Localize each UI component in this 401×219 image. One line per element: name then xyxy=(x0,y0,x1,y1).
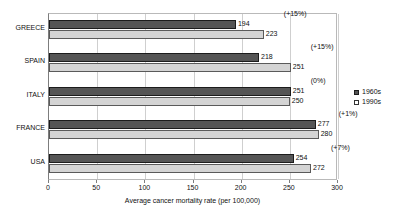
bar-1990s[interactable] xyxy=(49,30,264,39)
category-label-greece: GREECE xyxy=(15,23,45,32)
bar-value-1990s: 223 xyxy=(266,29,278,38)
percent-change-label: (+1%) xyxy=(339,109,358,118)
x-tick-label: 100 xyxy=(138,183,150,192)
bar-group: 251250(0%) xyxy=(49,86,336,108)
bar-1960s[interactable] xyxy=(49,53,259,62)
x-tick-label: 200 xyxy=(235,183,247,192)
bar-1990s[interactable] xyxy=(49,97,290,106)
bar-1960s[interactable] xyxy=(49,20,236,29)
x-tick-label: 50 xyxy=(92,183,100,192)
legend-label-1990s: 1990s xyxy=(362,97,381,107)
x-axis: 050100150200250300 xyxy=(48,180,337,194)
bar-group: 254272(+7%) xyxy=(49,153,336,175)
x-tick-label: 150 xyxy=(187,183,199,192)
bar-1960s[interactable] xyxy=(49,87,291,96)
bar-value-1990s: 251 xyxy=(293,62,305,71)
bar-1960s[interactable] xyxy=(49,154,294,163)
bar-value-1990s: 280 xyxy=(321,129,333,138)
percent-change-label: (0%) xyxy=(311,76,326,85)
bar-1990s[interactable] xyxy=(49,130,319,139)
bar-chart: GREECESPAINITALYFRANCEUSA 194223(+15%)21… xyxy=(0,0,401,219)
bar-value-1990s: 250 xyxy=(292,96,304,105)
bar-value-1960s: 218 xyxy=(261,52,273,61)
legend-label-1960s: 1960s xyxy=(362,87,381,97)
bar-value-1990s: 272 xyxy=(313,163,325,172)
x-tick-label: 300 xyxy=(331,183,343,192)
bar-1960s[interactable] xyxy=(49,120,316,129)
category-axis: GREECESPAINITALYFRANCEUSA xyxy=(0,13,45,180)
category-label-usa: USA xyxy=(31,157,45,166)
x-tick-label: 0 xyxy=(46,183,50,192)
category-label-france: FRANCE xyxy=(16,123,45,132)
chart-legend: 1960s 1990s xyxy=(354,87,381,107)
bar-1990s[interactable] xyxy=(49,164,311,173)
plot-area: 194223(+15%)218251(+15%)251250(0%)277280… xyxy=(48,13,337,180)
legend-item-1960s[interactable]: 1960s xyxy=(354,87,381,97)
bar-group: 277280(+1%) xyxy=(49,119,336,141)
gridline xyxy=(338,14,339,179)
category-label-italy: ITALY xyxy=(27,90,45,99)
bar-1990s[interactable] xyxy=(49,63,291,72)
percent-change-label: (+15%) xyxy=(284,9,307,18)
bar-value-1960s: 254 xyxy=(296,153,308,162)
bar-group: 218251(+15%) xyxy=(49,52,336,74)
x-tick-label: 250 xyxy=(283,183,295,192)
x-axis-title: Average cancer mortality rate (per 100,0… xyxy=(48,196,337,205)
bar-value-1960s: 277 xyxy=(318,119,330,128)
legend-swatch-1960s-icon xyxy=(354,90,359,95)
bar-value-1960s: 194 xyxy=(238,19,250,28)
percent-change-label: (+15%) xyxy=(311,42,334,51)
legend-swatch-1990s-icon xyxy=(354,100,359,105)
legend-item-1990s[interactable]: 1990s xyxy=(354,97,381,107)
bar-value-1960s: 251 xyxy=(293,86,305,95)
percent-change-label: (+7%) xyxy=(331,143,350,152)
category-label-spain: SPAIN xyxy=(25,56,46,65)
bar-group: 194223(+15%) xyxy=(49,19,336,41)
